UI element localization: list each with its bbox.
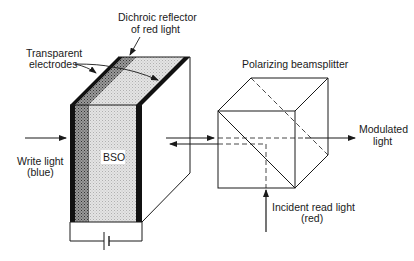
electrode-front-right <box>136 105 142 222</box>
write-light-label-line2: (blue) <box>27 166 54 178</box>
read-light-label-line2: (red) <box>301 212 323 224</box>
diagram-canvas: BSO Dichroic reflector of red light Tran… <box>0 0 414 261</box>
modulated-label-line2: light <box>373 135 392 147</box>
polarizing-beamsplitter: Polarizing beamsplitter <box>218 58 349 188</box>
modulated-light-annotation: Modulated light <box>305 123 408 147</box>
modulated-label-line1: Modulated <box>359 123 408 135</box>
optical-diagram: BSO Dichroic reflector of red light Tran… <box>0 0 414 261</box>
electrodes-annotation: Transparent electrodes <box>26 47 112 73</box>
dichroic-label-line1: Dichroic reflector <box>118 11 197 23</box>
bso-modulator: BSO <box>70 57 190 222</box>
write-light-annotation: Write light (blue) <box>17 138 66 178</box>
beamsplitter-label: Polarizing beamsplitter <box>242 58 349 70</box>
electrodes-label-line2: electrodes <box>29 58 77 70</box>
read-beam-double-arrow <box>166 138 218 144</box>
battery-circuit <box>70 222 142 250</box>
dichroic-annotation: Dichroic reflector of red light <box>118 11 197 55</box>
dichroic-label-line2: of red light <box>131 23 180 35</box>
bso-label: BSO <box>103 151 125 163</box>
dichroic-layer-front <box>75 105 89 222</box>
read-light-annotation: Incident read light (red) <box>266 190 355 232</box>
electrode-front-left <box>70 105 75 222</box>
